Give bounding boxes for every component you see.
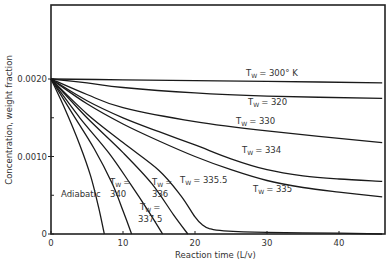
label-336-value: 336 [152,189,168,199]
label-300k: TW= 300° K [245,68,298,79]
curve-tw-335-5 [51,79,382,234]
y-axis-label: Concentration, weight fraction [4,55,14,185]
label-340: TW= [109,177,130,188]
label-337-5-value: 337.5 [138,214,162,224]
x-axis-label: Reaction time (L/v) [175,250,256,260]
label-335-5: TW= 335.5 [179,175,227,186]
label-adiabatic: Adiabatic [61,189,101,199]
x-tick-label: 10 [118,238,129,248]
label-335: TW= 335 [252,184,292,195]
curve-adiabatic [51,79,104,234]
label-330: TW= 330 [235,116,275,127]
curve-tw-300-k [51,79,382,83]
label-340-value: 340 [110,189,126,199]
x-tick-label: 20 [190,238,201,248]
y-tick-label: 0.0020 [17,74,47,84]
label-336: TW= [151,177,172,188]
concentration-chart: 00.00100.0020 010203040 Concentration, w… [0,0,391,265]
label-320: TW= 320 [247,97,287,108]
x-tick-label: 30 [262,238,273,248]
x-tick-label: 40 [334,238,345,248]
curve-tw-330 [51,79,382,143]
y-tick-label: 0 [42,229,47,239]
label-334: TW= 334 [241,145,281,156]
x-tick-label: 0 [48,238,53,248]
curve-tw-337-5 [51,79,188,234]
plot-frame [51,5,385,234]
y-tick-label: 0.0010 [17,152,47,162]
label-337-5: TW= [139,202,160,213]
y-ticks: 00.00100.0020 [17,74,54,239]
curves [51,79,382,234]
